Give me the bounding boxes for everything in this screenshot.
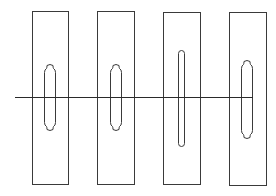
diagram-canvas: [0, 0, 276, 196]
plate-outline: [230, 13, 267, 186]
plates-group: [33, 12, 267, 186]
plate-4: [230, 13, 267, 186]
plate-3: [164, 13, 201, 185]
plate-outline: [164, 13, 201, 185]
